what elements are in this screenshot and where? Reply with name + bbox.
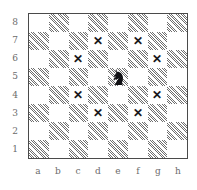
file-label-a: a [28, 163, 48, 179]
square-a4[interactable] [29, 86, 49, 104]
square-g6[interactable]: ✕ [148, 50, 168, 68]
rank-label-7: 7 [6, 31, 24, 49]
square-h6[interactable] [167, 50, 187, 68]
file-labels: abcdefgh [28, 163, 188, 179]
black-knight-icon[interactable] [108, 68, 128, 86]
square-b1[interactable] [49, 140, 69, 158]
move-mark-d7: ✕ [93, 35, 103, 47]
square-g5[interactable] [148, 68, 168, 86]
move-mark-g6: ✕ [152, 53, 162, 65]
square-e1[interactable] [108, 140, 128, 158]
square-g3[interactable] [148, 104, 168, 122]
square-h4[interactable] [167, 86, 187, 104]
square-a7[interactable] [29, 32, 49, 50]
square-h2[interactable] [167, 122, 187, 140]
square-g8[interactable] [148, 14, 168, 32]
square-f7[interactable]: ✕ [128, 32, 148, 50]
square-d5[interactable] [88, 68, 108, 86]
square-c8[interactable] [69, 14, 89, 32]
file-label-c: c [68, 163, 88, 179]
square-a6[interactable] [29, 50, 49, 68]
square-a3[interactable] [29, 104, 49, 122]
file-label-h: h [168, 163, 188, 179]
square-d8[interactable] [88, 14, 108, 32]
square-e6[interactable] [108, 50, 128, 68]
square-c5[interactable] [69, 68, 89, 86]
square-b4[interactable] [49, 86, 69, 104]
move-mark-c6: ✕ [73, 53, 83, 65]
square-h7[interactable] [167, 32, 187, 50]
square-h5[interactable] [167, 68, 187, 86]
square-d3[interactable]: ✕ [88, 104, 108, 122]
square-b8[interactable] [49, 14, 69, 32]
move-mark-f7: ✕ [133, 35, 143, 47]
square-f6[interactable] [128, 50, 148, 68]
square-c6[interactable]: ✕ [69, 50, 89, 68]
rank-label-5: 5 [6, 68, 24, 86]
file-label-e: e [108, 163, 128, 179]
square-e7[interactable] [108, 32, 128, 50]
move-mark-f3: ✕ [133, 107, 143, 119]
square-g2[interactable] [148, 122, 168, 140]
square-h3[interactable] [167, 104, 187, 122]
rank-label-8: 8 [6, 13, 24, 31]
square-d2[interactable] [88, 122, 108, 140]
square-b6[interactable] [49, 50, 69, 68]
rank-label-2: 2 [6, 123, 24, 141]
square-h8[interactable] [167, 14, 187, 32]
file-label-g: g [148, 163, 168, 179]
chess-diagram: 87654321 ✕✕✕✕✕✕✕✕ abcdefgh [0, 0, 197, 190]
square-a1[interactable] [29, 140, 49, 158]
board-grid[interactable]: ✕✕✕✕✕✕✕✕ [29, 14, 187, 158]
square-c7[interactable] [69, 32, 89, 50]
square-b7[interactable] [49, 32, 69, 50]
square-f5[interactable] [128, 68, 148, 86]
rank-labels: 87654321 [6, 13, 24, 159]
square-e2[interactable] [108, 122, 128, 140]
file-label-d: d [88, 163, 108, 179]
square-a5[interactable] [29, 68, 49, 86]
square-e4[interactable] [108, 86, 128, 104]
square-a8[interactable] [29, 14, 49, 32]
rank-label-4: 4 [6, 86, 24, 104]
square-c3[interactable] [69, 104, 89, 122]
square-b3[interactable] [49, 104, 69, 122]
square-b2[interactable] [49, 122, 69, 140]
move-mark-d3: ✕ [93, 107, 103, 119]
square-e5[interactable] [108, 68, 128, 86]
square-f3[interactable]: ✕ [128, 104, 148, 122]
square-f8[interactable] [128, 14, 148, 32]
square-d7[interactable]: ✕ [88, 32, 108, 50]
square-c1[interactable] [69, 140, 89, 158]
chess-board[interactable]: ✕✕✕✕✕✕✕✕ [28, 13, 188, 159]
square-f4[interactable] [128, 86, 148, 104]
square-d4[interactable] [88, 86, 108, 104]
square-d1[interactable] [88, 140, 108, 158]
square-g1[interactable] [148, 140, 168, 158]
move-mark-c4: ✕ [73, 89, 83, 101]
square-a2[interactable] [29, 122, 49, 140]
square-h1[interactable] [167, 140, 187, 158]
rank-label-1: 1 [6, 141, 24, 159]
file-label-f: f [128, 163, 148, 179]
rank-label-6: 6 [6, 50, 24, 68]
rank-label-3: 3 [6, 104, 24, 122]
square-f1[interactable] [128, 140, 148, 158]
square-g4[interactable]: ✕ [148, 86, 168, 104]
square-e3[interactable] [108, 104, 128, 122]
square-c4[interactable]: ✕ [69, 86, 89, 104]
file-label-b: b [48, 163, 68, 179]
square-f2[interactable] [128, 122, 148, 140]
square-c2[interactable] [69, 122, 89, 140]
square-g7[interactable] [148, 32, 168, 50]
square-b5[interactable] [49, 68, 69, 86]
move-mark-g4: ✕ [152, 89, 162, 101]
square-d6[interactable] [88, 50, 108, 68]
square-e8[interactable] [108, 14, 128, 32]
